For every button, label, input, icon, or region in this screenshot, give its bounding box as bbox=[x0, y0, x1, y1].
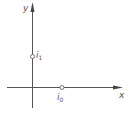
point-i0-label: i0 bbox=[57, 93, 63, 103]
x-axis-label: x bbox=[119, 91, 124, 100]
y-axis-arrow-icon bbox=[31, 2, 35, 12]
x-axis-arrow-icon bbox=[113, 86, 123, 90]
point-i0 bbox=[60, 86, 64, 90]
axes-graphic bbox=[0, 0, 134, 120]
point-i1-label: i1 bbox=[36, 51, 42, 61]
coordinate-diagram: y x i1 i0 bbox=[0, 0, 134, 120]
point-i1-subscript: 1 bbox=[39, 54, 43, 61]
point-i1 bbox=[31, 55, 35, 59]
y-axis-label: y bbox=[23, 4, 28, 13]
point-i0-subscript: 0 bbox=[60, 96, 64, 103]
